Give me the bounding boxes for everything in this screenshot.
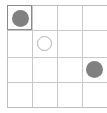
grid-cell-r1-c4[interactable] bbox=[82, 5, 107, 30]
grid-cell-r4-c1[interactable] bbox=[7, 82, 32, 107]
grid-cell-r1-c3[interactable] bbox=[57, 5, 82, 30]
grid-cell-r3-c1[interactable] bbox=[7, 57, 32, 82]
grid-cell-r4-c4[interactable] bbox=[82, 82, 107, 107]
outline-circle-token[interactable] bbox=[37, 36, 52, 51]
grid-cell-r2-c2[interactable] bbox=[32, 30, 57, 57]
grid-cell-r3-c2[interactable] bbox=[32, 57, 57, 82]
filled-circle-token[interactable] bbox=[86, 61, 103, 78]
grid-cell-r4-c2[interactable] bbox=[32, 82, 57, 107]
grid-cell-r4-c3[interactable] bbox=[57, 82, 82, 107]
grid-cell-r2-c3[interactable] bbox=[57, 30, 82, 57]
grid-cell-r1-c2[interactable] bbox=[32, 5, 57, 30]
grid-cell-r1-c1[interactable] bbox=[7, 5, 32, 30]
filled-circle-token[interactable] bbox=[12, 10, 29, 27]
grid-cell-r2-c1[interactable] bbox=[7, 30, 32, 57]
grid-cell-r3-c3[interactable] bbox=[57, 57, 82, 82]
grid-cell-r2-c4[interactable] bbox=[82, 30, 107, 57]
grid-widget bbox=[0, 0, 107, 113]
grid-board[interactable] bbox=[7, 5, 107, 107]
grid-line-horizontal-4 bbox=[7, 107, 107, 108]
grid-cell-r3-c4[interactable] bbox=[82, 57, 107, 82]
